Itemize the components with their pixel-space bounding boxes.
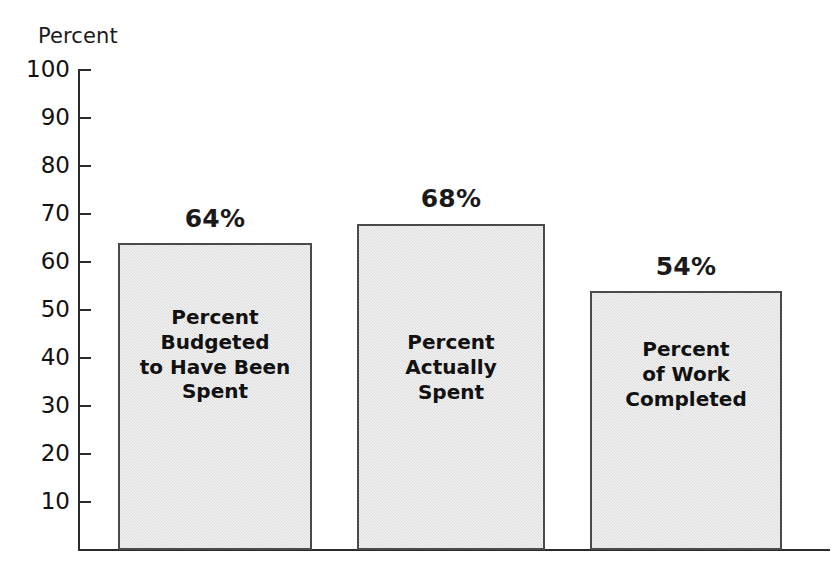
y-tick-mark-20 xyxy=(78,453,91,455)
y-tick-mark-30 xyxy=(78,405,91,407)
y-tick-label-100: 100 xyxy=(6,58,70,81)
y-tick-label-20-wrap: 20 xyxy=(0,442,70,466)
y-tick-label-10-wrap: 10 xyxy=(0,490,70,514)
y-tick-mark-50 xyxy=(78,309,91,311)
y-tick-label-50: 50 xyxy=(6,298,70,321)
y-tick-mark-100 xyxy=(78,69,91,71)
y-tick-mark-40 xyxy=(78,357,91,359)
bar-chart: Percent 100 90 80 70 60 50 40 30 20 xyxy=(0,0,833,580)
bar-category-label-2: Percent Actually Spent xyxy=(357,330,545,404)
bar-value-label-1: 64% xyxy=(118,206,312,231)
y-axis-title: Percent xyxy=(38,24,118,48)
y-tick-label-30: 30 xyxy=(6,394,70,417)
y-tick-mark-60 xyxy=(78,261,91,263)
y-tick-label-30-wrap: 30 xyxy=(0,394,70,418)
y-tick-label-60: 60 xyxy=(6,250,70,273)
y-tick-label-90: 90 xyxy=(6,106,70,129)
bar-category-label-1: Percent Budgeted to Have Been Spent xyxy=(118,305,312,404)
y-tick-mark-90 xyxy=(78,117,91,119)
bar-value-label-2: 68% xyxy=(357,186,545,211)
y-tick-label-60-wrap: 60 xyxy=(0,250,70,274)
y-tick-label-90-wrap: 90 xyxy=(0,106,70,130)
y-tick-label-40-wrap: 40 xyxy=(0,346,70,370)
y-tick-label-70: 70 xyxy=(6,202,70,225)
y-tick-label-70-wrap: 70 xyxy=(0,202,70,226)
y-tick-mark-80 xyxy=(78,165,91,167)
bar-percent-work-completed xyxy=(590,291,782,550)
y-tick-label-20: 20 xyxy=(6,442,70,465)
y-tick-label-100-wrap: 100 xyxy=(0,58,70,82)
bar-category-label-3: Percent of Work Completed xyxy=(590,337,782,411)
y-tick-mark-10 xyxy=(78,501,91,503)
y-tick-label-40: 40 xyxy=(6,346,70,369)
y-tick-label-50-wrap: 50 xyxy=(0,298,70,322)
y-tick-label-80: 80 xyxy=(6,154,70,177)
y-tick-mark-70 xyxy=(78,213,91,215)
y-tick-label-80-wrap: 80 xyxy=(0,154,70,178)
y-tick-label-10: 10 xyxy=(6,490,70,513)
bar-value-label-3: 54% xyxy=(590,254,782,279)
